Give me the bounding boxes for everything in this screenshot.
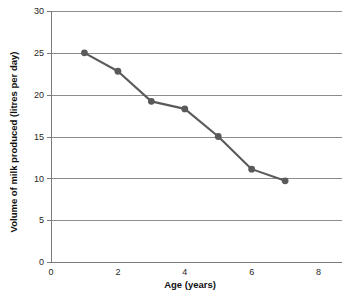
data-point-marker <box>148 98 155 105</box>
y-axis-title: Volume of milk produced (litres per day) <box>8 52 19 233</box>
y-tick-label: 5 <box>39 215 44 225</box>
data-point-marker <box>181 105 188 112</box>
data-point-marker <box>81 49 88 56</box>
x-tick-labels: 02468 <box>48 267 321 277</box>
series-line <box>84 53 285 181</box>
chart-canvas: 051015202530 02468 Age (years) Volume of… <box>0 0 351 300</box>
x-tick-label: 8 <box>316 267 321 277</box>
data-point-marker <box>282 177 289 184</box>
line-chart: 051015202530 02468 Age (years) Volume of… <box>0 0 351 300</box>
y-tick-label: 25 <box>34 48 44 58</box>
data-point-marker <box>215 133 222 140</box>
data-point-marker <box>248 166 255 173</box>
gridlines <box>51 12 342 263</box>
y-tick-label: 20 <box>34 90 44 100</box>
x-tick-label: 2 <box>115 267 120 277</box>
x-axis-title: Age (years) <box>164 279 216 290</box>
x-tick-label: 0 <box>48 267 53 277</box>
y-tick-label: 15 <box>34 132 44 142</box>
y-tick-label: 10 <box>34 174 44 184</box>
data-series <box>81 49 288 184</box>
data-point-marker <box>115 68 122 75</box>
y-tick-label: 0 <box>39 257 44 267</box>
y-axis <box>47 11 52 263</box>
x-tick-label: 4 <box>182 267 187 277</box>
y-tick-label: 30 <box>34 6 44 16</box>
y-tick-labels: 051015202530 <box>34 6 44 267</box>
x-tick-label: 6 <box>249 267 254 277</box>
